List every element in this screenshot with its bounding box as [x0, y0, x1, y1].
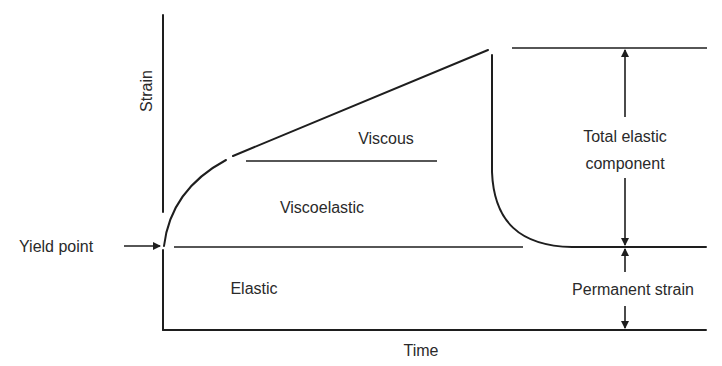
- viscoelastic-label: Viscoelastic: [280, 199, 364, 216]
- total-elastic-label-line2: component: [585, 155, 665, 172]
- permanent-strain-label: Permanent strain: [572, 281, 694, 298]
- strain-curve-viscoelastic: [164, 160, 226, 246]
- recovery-curve: [492, 55, 706, 247]
- x-axis-label: Time: [404, 342, 439, 359]
- elastic-label: Elastic: [230, 280, 277, 297]
- viscous-label: Viscous: [358, 130, 414, 147]
- total-elastic-label-line1: Total elastic: [583, 128, 667, 145]
- yield-point-label: Yield point: [19, 238, 94, 255]
- y-axis-label: Strain: [138, 70, 155, 112]
- strain-time-diagram: Strain Time Viscous Viscoelastic Elastic…: [0, 0, 722, 366]
